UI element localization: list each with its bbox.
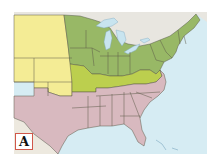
map-label: A [15, 133, 33, 150]
